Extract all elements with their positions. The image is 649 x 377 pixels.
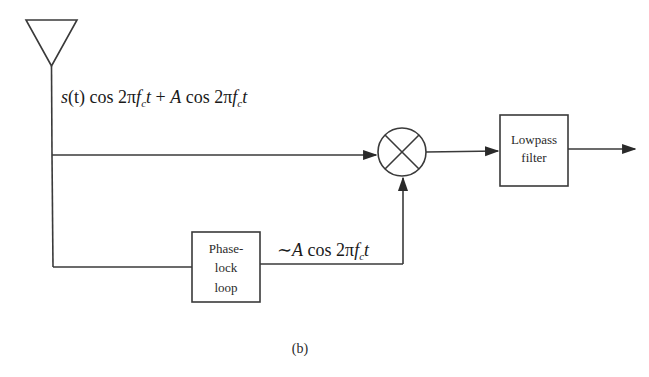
- mixer-icon: [378, 128, 426, 176]
- pll-output-label: ∼A cos 2πfct: [277, 240, 370, 262]
- pll-label-line1: Phase-: [209, 241, 244, 256]
- lowpass-label-line1: Lowpass: [511, 132, 557, 147]
- diagram-canvas: s(t) cos 2πfct + A cos 2πfct Lowpass fil…: [0, 0, 649, 377]
- figure-caption: (b): [292, 341, 309, 357]
- phase-lock-loop-block: Phase- lock loop: [192, 232, 260, 302]
- wire-down: [52, 155, 53, 267]
- lowpass-label-line2: filter: [521, 150, 547, 165]
- pll-label-line2: lock: [215, 260, 238, 275]
- input-signal-label: s(t) cos 2πfct + A cos 2πfct: [61, 87, 248, 109]
- lowpass-filter-block: Lowpass filter: [500, 115, 568, 186]
- wire-mixer-to-filter: [426, 151, 498, 152]
- pll-label-line3: loop: [214, 280, 237, 295]
